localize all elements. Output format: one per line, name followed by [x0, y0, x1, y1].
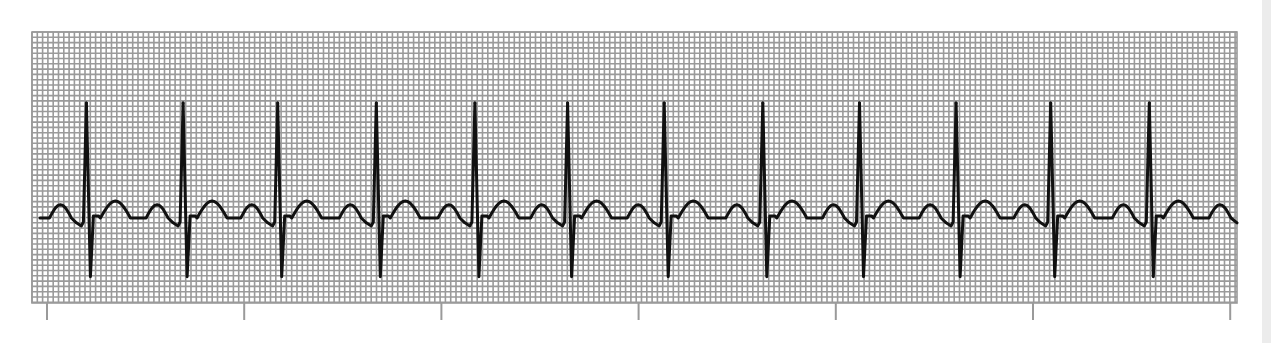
r-peak-6: [566, 101, 569, 104]
r-peak-2: [182, 101, 185, 104]
r-peak-11: [1049, 101, 1052, 104]
ecg-strip: [0, 0, 1271, 343]
r-peak-7: [663, 101, 666, 104]
scrollbar-strip: [1262, 0, 1271, 343]
r-peak-4: [375, 101, 378, 104]
time-ticks: [47, 303, 1230, 320]
r-peak-1: [85, 101, 88, 104]
r-peak-3: [276, 101, 279, 104]
r-peak-12: [1148, 101, 1151, 104]
r-peak-8: [761, 101, 764, 104]
r-peak-10: [955, 101, 958, 104]
r-peak-9: [858, 101, 861, 104]
r-peak-5: [473, 101, 476, 104]
